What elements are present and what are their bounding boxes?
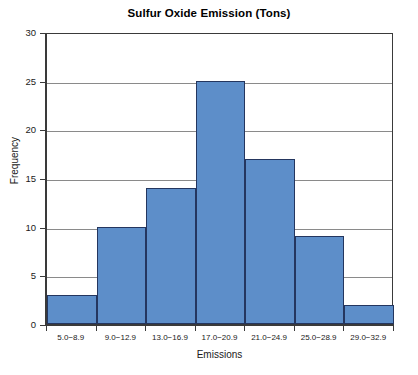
x-axis-spine bbox=[45, 324, 394, 326]
y-tick-mark bbox=[40, 325, 45, 326]
x-tick-mark bbox=[195, 326, 196, 331]
y-tick-mark bbox=[40, 33, 45, 34]
y-tick-mark bbox=[40, 228, 45, 229]
x-tick-mark bbox=[244, 326, 245, 331]
y-tick-label: 0 bbox=[0, 320, 36, 330]
y-tick-label: 5 bbox=[0, 271, 36, 281]
x-tick-mark bbox=[343, 326, 344, 331]
y-tick-mark bbox=[40, 276, 45, 277]
plot-area bbox=[46, 33, 393, 325]
chart-title: Sulfur Oxide Emission (Tons) bbox=[0, 7, 418, 19]
x-tick-label: 17.0−20.9 bbox=[195, 334, 245, 342]
y-axis-spine bbox=[45, 33, 47, 326]
histogram-bar bbox=[146, 188, 196, 324]
x-tick-mark bbox=[46, 326, 47, 331]
histogram-chart: Sulfur Oxide Emission (Tons) Emissions F… bbox=[0, 0, 418, 375]
histogram-bar bbox=[47, 295, 97, 324]
histogram-bar bbox=[344, 305, 394, 324]
y-tick-label: 10 bbox=[0, 223, 36, 233]
x-tick-mark bbox=[393, 326, 394, 331]
y-tick-mark bbox=[40, 82, 45, 83]
histogram-bar bbox=[245, 159, 295, 324]
histogram-bar bbox=[196, 81, 246, 324]
x-axis-title: Emissions bbox=[46, 349, 393, 360]
y-tick-label: 25 bbox=[0, 77, 36, 87]
x-tick-label: 21.0−24.9 bbox=[244, 334, 294, 342]
x-tick-mark bbox=[145, 326, 146, 331]
histogram-bar bbox=[295, 236, 345, 324]
x-tick-label: 25.0−28.9 bbox=[294, 334, 344, 342]
x-tick-label: 29.0−32.9 bbox=[343, 334, 393, 342]
x-tick-label: 9.0−12.9 bbox=[96, 334, 146, 342]
x-tick-mark bbox=[294, 326, 295, 331]
y-tick-label: 15 bbox=[0, 174, 36, 184]
histogram-bar bbox=[97, 227, 147, 324]
x-tick-mark bbox=[96, 326, 97, 331]
x-tick-label: 5.0−8.9 bbox=[46, 334, 96, 342]
y-tick-label: 30 bbox=[0, 28, 36, 38]
y-tick-mark bbox=[40, 130, 45, 131]
x-tick-label: 13.0−16.9 bbox=[145, 334, 195, 342]
y-tick-label: 20 bbox=[0, 125, 36, 135]
y-tick-mark bbox=[40, 179, 45, 180]
